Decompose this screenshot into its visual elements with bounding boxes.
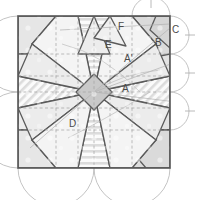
region-label-d: D <box>69 118 76 129</box>
region-label-c: C <box>172 24 179 35</box>
region-label-f: F <box>118 21 124 32</box>
tiling-diagram: A A' B C D E F <box>0 0 201 200</box>
region-label-a-prime: A' <box>124 53 133 64</box>
texture-overlay <box>18 16 170 168</box>
region-label-a: A <box>122 83 129 94</box>
region-label-b: B <box>155 37 162 48</box>
region-label-e: E <box>105 39 112 50</box>
